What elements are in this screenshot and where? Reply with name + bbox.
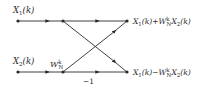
label-input-bottom: X2(k)	[12, 56, 34, 67]
label-branch-gain: −1	[83, 77, 94, 86]
label-input-top: X1(k)	[12, 5, 34, 16]
edge-cross-down	[63, 21, 115, 62]
node-mid-top	[61, 19, 64, 22]
butterfly-diagram: X1(k) X2(k) WkN −1 X1(k)+WkNX2(k) X1(k)−…	[0, 0, 207, 91]
edge-cross-up	[63, 31, 115, 72]
node-input-top	[16, 19, 19, 22]
node-mid-bottom	[61, 70, 64, 73]
node-output-top	[125, 19, 128, 22]
label-output-top: X1(k)+WkNX2(k)	[132, 16, 191, 27]
label-twiddle-factor: WkN	[50, 59, 64, 71]
node-output-bottom	[125, 70, 128, 73]
node-input-bottom	[16, 70, 19, 73]
label-output-bottom: X1(k)−WkNX2(k)	[132, 67, 191, 78]
